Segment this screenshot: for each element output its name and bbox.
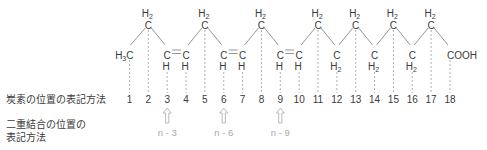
position-number: 15 bbox=[388, 94, 400, 105]
carbon-atom-13: CH2 bbox=[349, 8, 360, 31]
carbon-atom-17: CH2 bbox=[425, 8, 436, 31]
position-number: 16 bbox=[407, 94, 419, 105]
svg-text:H2: H2 bbox=[349, 8, 360, 20]
single-bond-line bbox=[131, 28, 146, 45]
svg-text:C: C bbox=[277, 50, 284, 61]
svg-text:H2: H2 bbox=[255, 8, 266, 20]
svg-text:C: C bbox=[371, 50, 378, 61]
carbon-atom-16: CH2 bbox=[406, 50, 417, 73]
svg-text:COOH: COOH bbox=[447, 50, 477, 61]
svg-text:H2: H2 bbox=[198, 8, 209, 20]
svg-text:C: C bbox=[314, 20, 321, 31]
position-number: 14 bbox=[369, 94, 381, 105]
single-bond-line bbox=[264, 28, 278, 45]
position-number: 17 bbox=[426, 94, 438, 105]
svg-text:H: H bbox=[238, 61, 245, 72]
svg-text:H: H bbox=[219, 61, 226, 72]
svg-text:C: C bbox=[258, 20, 265, 31]
omega-label: n - 6 bbox=[214, 127, 233, 138]
omega-marker-6: n - 6 bbox=[214, 108, 233, 138]
carbon-atom-11: CH2 bbox=[311, 8, 322, 31]
svg-text:C: C bbox=[352, 20, 359, 31]
svg-text:C: C bbox=[182, 50, 189, 61]
carbon-atom-2: CH2 bbox=[142, 8, 153, 31]
svg-text:H2: H2 bbox=[425, 8, 436, 20]
position-number: 8 bbox=[259, 94, 265, 105]
single-bond-line bbox=[396, 28, 410, 45]
svg-text:H: H bbox=[295, 61, 302, 72]
carbon-atoms: H3CCH2CHCHCH2CHCHCH2CHCHCH2CH2CH2CH2CH2C… bbox=[115, 8, 477, 73]
carbon-atom-1: H3C bbox=[115, 50, 133, 62]
position-number: 2 bbox=[146, 94, 152, 105]
single-bond-line bbox=[434, 28, 448, 45]
carbon-chain-bonds bbox=[131, 28, 448, 54]
position-guide-lines bbox=[130, 30, 450, 93]
single-bond-line bbox=[339, 28, 353, 45]
carbon-atom-7: CH bbox=[238, 50, 246, 72]
up-arrow-icon bbox=[276, 108, 284, 123]
carbon-atom-12: CH2 bbox=[330, 50, 341, 73]
carbon-position-numbers: 123456789101112131415161718 bbox=[127, 94, 456, 105]
carbon-atom-8: CH2 bbox=[255, 8, 266, 31]
carbon-atom-6: CH bbox=[219, 50, 227, 72]
position-number: 13 bbox=[350, 94, 362, 105]
fatty-acid-structure-diagram: H3CCH2CHCHCH2CHCHCH2CHCHCH2CH2CH2CH2CH2C… bbox=[0, 0, 487, 150]
omega-label: n - 9 bbox=[271, 127, 290, 138]
single-bond-line bbox=[151, 28, 165, 45]
single-bond-line bbox=[245, 28, 259, 45]
single-bond-line bbox=[359, 28, 373, 45]
svg-text:C: C bbox=[145, 20, 152, 31]
omega-label: n - 3 bbox=[158, 127, 177, 138]
carbon-atom-15: CH2 bbox=[387, 8, 398, 31]
position-number: 1 bbox=[127, 94, 133, 105]
svg-text:C: C bbox=[220, 50, 227, 61]
single-bond-line bbox=[188, 28, 202, 45]
omega-marker-9: n - 9 bbox=[271, 108, 290, 138]
svg-text:H2: H2 bbox=[406, 61, 417, 73]
svg-text:H2: H2 bbox=[387, 8, 398, 20]
position-number: 12 bbox=[331, 94, 343, 105]
svg-text:H: H bbox=[276, 61, 283, 72]
svg-text:H2: H2 bbox=[368, 61, 379, 73]
position-number: 3 bbox=[164, 94, 170, 105]
single-bond-line bbox=[377, 28, 391, 45]
carbon-atom-14: CH2 bbox=[368, 50, 379, 73]
svg-text:H: H bbox=[181, 61, 188, 72]
svg-text:H2: H2 bbox=[330, 61, 341, 73]
single-bond-line bbox=[208, 28, 222, 45]
svg-text:C: C bbox=[427, 20, 434, 31]
double-bond-markers: n - 3n - 6n - 9 bbox=[158, 108, 290, 138]
carbon-atom-10: CH bbox=[295, 50, 303, 72]
position-number: 6 bbox=[221, 94, 227, 105]
svg-text:C: C bbox=[239, 50, 246, 61]
position-number: 7 bbox=[240, 94, 246, 105]
position-number: 10 bbox=[294, 94, 306, 105]
single-bond-line bbox=[321, 28, 335, 45]
svg-text:H2: H2 bbox=[142, 8, 153, 20]
svg-text:C: C bbox=[296, 50, 303, 61]
up-arrow-icon bbox=[163, 108, 171, 123]
svg-text:C: C bbox=[201, 20, 208, 31]
carbon-atom-3: CH bbox=[163, 50, 171, 72]
carbon-atom-4: CH bbox=[181, 50, 189, 72]
position-number: 4 bbox=[183, 94, 189, 105]
svg-text:C: C bbox=[390, 20, 397, 31]
svg-text:H3C: H3C bbox=[115, 50, 133, 62]
single-bond-line bbox=[301, 28, 315, 45]
svg-text:C: C bbox=[333, 50, 340, 61]
carbon-atom-9: CH bbox=[276, 50, 284, 72]
position-number: 18 bbox=[444, 94, 456, 105]
position-number: 11 bbox=[313, 94, 324, 105]
omega-marker-3: n - 3 bbox=[158, 108, 177, 138]
position-number: 5 bbox=[202, 94, 208, 105]
svg-text:H: H bbox=[163, 61, 170, 72]
svg-text:H2: H2 bbox=[311, 8, 322, 20]
carbon-atom-18: COOH bbox=[447, 50, 477, 61]
up-arrow-icon bbox=[220, 108, 228, 123]
svg-text:C: C bbox=[164, 50, 171, 61]
svg-text:C: C bbox=[409, 50, 416, 61]
carbon-atom-5: CH2 bbox=[198, 8, 209, 31]
position-number: 9 bbox=[278, 94, 284, 105]
single-bond-line bbox=[414, 28, 428, 45]
